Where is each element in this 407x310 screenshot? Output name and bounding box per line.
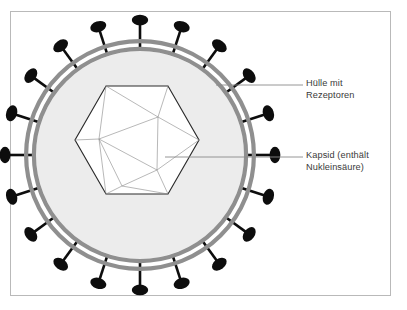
receptor-spike-head [22,66,40,86]
receptor-spike-stem [241,114,266,122]
label-capsid: Kapsid (enthält Nukleinsäure) [306,150,369,173]
receptor-spike-head [0,147,10,163]
receptor-spike-head [4,104,19,123]
label-capsid-line1: Kapsid (enthält [306,150,369,160]
receptor-spike-stem [241,188,266,196]
receptor-spike-stem [14,188,39,196]
receptor-spike-head [210,255,230,273]
receptor-spike-stem [14,114,39,122]
virus-diagram-figure: Hülle mit Rezeptoren Kapsid (enthält Nuk… [0,0,407,310]
receptor-spike-stem [99,29,107,54]
receptor-spike-head [172,276,191,291]
receptor-spike-head [89,19,108,34]
receptor-spike-stem [173,29,181,54]
receptor-spike-head [172,19,191,34]
receptor-spike-stem [99,256,107,281]
receptor-spike-head [132,15,148,26]
receptor-spike-head [22,225,40,245]
receptor-spike-head [261,187,276,206]
receptor-spike-head [261,104,276,123]
label-envelope-line2: Rezeptoren [306,90,355,102]
receptor-spike-stem [173,256,181,281]
receptor-spike-head [210,37,230,55]
label-envelope-line1: Hülle mit [306,78,343,88]
receptor-spike-head [270,147,281,163]
label-capsid-line2: Nukleinsäure) [306,162,369,174]
receptor-spike-head [240,225,258,245]
receptor-spike-head [4,187,19,206]
receptor-spike-head [51,37,71,55]
receptor-spike-head [89,276,108,291]
receptor-spike-head [132,285,148,296]
label-envelope: Hülle mit Rezeptoren [306,78,355,101]
receptor-spike-head [51,255,71,273]
receptor-spike-head [240,66,258,86]
